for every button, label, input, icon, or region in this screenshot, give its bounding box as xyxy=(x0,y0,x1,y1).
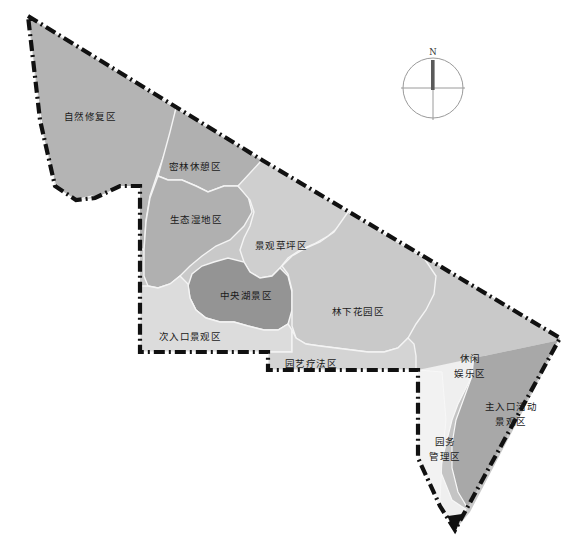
park-zoning-map: N 自然修复区 密林休憩区 生态湿地区 景观草坪区 中央湖景区 次入口景观区 林… xyxy=(0,0,573,554)
zone-label-park-management-line1: 园务 xyxy=(435,436,456,447)
zone-label-landscape-lawn: 景观草坪区 xyxy=(255,240,307,251)
zone-label-leisure-recreation-line1: 休闲 xyxy=(460,353,481,364)
zone-label-central-lake: 中央湖景区 xyxy=(220,290,272,301)
compass-north-label: N xyxy=(429,47,437,57)
zone-label-main-entrance-activity-line1: 主入口活动 xyxy=(485,401,537,412)
zone-label-secondary-entrance: 次入口景观区 xyxy=(159,331,221,342)
zone-label-ecological-wetland: 生态湿地区 xyxy=(170,214,222,225)
zone-label-park-management-line2: 管理区 xyxy=(429,451,460,462)
zone-label-understory-garden: 林下花园区 xyxy=(332,306,384,317)
zone-label-horticultural-therapy: 园艺疗法区 xyxy=(285,358,337,369)
zone-label-leisure-recreation-line2: 娱乐区 xyxy=(454,368,485,379)
zone-label-dense-forest-rest: 密林休憩区 xyxy=(169,161,221,172)
compass-north-needle xyxy=(431,60,435,90)
map-canvas: N 自然修复区 密林休憩区 生态湿地区 景观草坪区 中央湖景区 次入口景观区 林… xyxy=(0,0,573,554)
compass-rose: N xyxy=(401,47,465,120)
zone-label-natural-restoration: 自然修复区 xyxy=(64,111,116,122)
zone-label-main-entrance-activity-line2: 景观区 xyxy=(495,416,526,427)
